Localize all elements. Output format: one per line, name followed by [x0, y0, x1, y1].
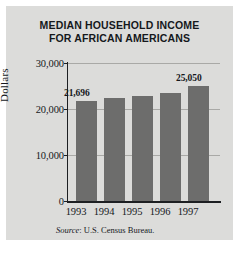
source-note: Source: U.S. Census Bureau. — [56, 225, 154, 235]
y-axis-line — [67, 62, 68, 202]
x-axis-line — [67, 201, 221, 203]
bar-1995 — [132, 96, 153, 201]
gridline-30000 — [68, 63, 220, 64]
chart-title-line-1: MEDIAN HOUSEHOLD INCOME — [6, 19, 233, 32]
y-tick-label-20000: 20,000 — [36, 104, 64, 115]
bar-1994 — [104, 98, 125, 201]
chart-title-line-2: FOR AFRICAN AMERICANS — [6, 32, 233, 45]
y-axis-title: Dollars — [0, 68, 10, 102]
y-tick-mark-10000 — [64, 155, 68, 156]
plot-area: 21,696 25,050 — [68, 63, 220, 201]
y-tick-label-10000: 10,000 — [36, 150, 64, 161]
bar-value-label-1997: 25,050 — [176, 73, 202, 83]
chart-title: MEDIAN HOUSEHOLD INCOME FOR AFRICAN AMER… — [6, 19, 233, 45]
y-tick-label-30000: 30,000 — [36, 58, 64, 69]
bar-value-label-1993: 21,696 — [64, 88, 90, 98]
source-note-prefix: Source — [56, 225, 79, 235]
chart-figure: MEDIAN HOUSEHOLD INCOME FOR AFRICAN AMER… — [6, 6, 233, 240]
y-tick-mark-0 — [64, 201, 68, 202]
y-tick-mark-20000 — [64, 109, 68, 110]
source-note-text: : U.S. Census Bureau. — [79, 225, 154, 235]
y-tick-mark-30000 — [64, 63, 68, 64]
bar-1993 — [76, 101, 97, 201]
x-tick-label-1997: 1997 — [171, 206, 205, 217]
bar-1997 — [188, 86, 209, 201]
bar-1996 — [160, 93, 181, 201]
